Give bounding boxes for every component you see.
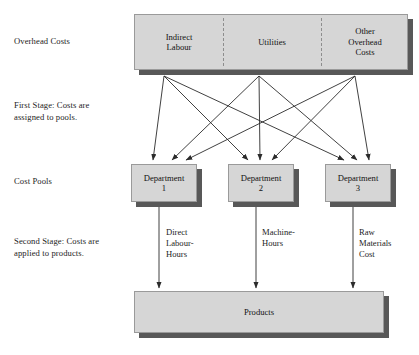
stage-label-cost-pools: Cost Pools — [14, 176, 134, 188]
cost-pool-label: Department 2 — [241, 173, 282, 194]
overhead-cell-indirect-labour: Indirect Labour — [135, 15, 223, 69]
overhead-cell-utilities: Utilities — [223, 15, 321, 69]
first-stage-arrow-group — [153, 76, 369, 160]
stage-label-overhead-costs: Overhead Costs — [14, 36, 134, 48]
stage-label-second-stage: Second Stage: Costs are applied to produ… — [14, 236, 142, 259]
two-stage-allocation-diagram: Overhead Costs First Stage: Costs are as… — [0, 0, 419, 355]
overhead-cell-label: Utilities — [258, 37, 286, 48]
cost-driver-machine-hours: Machine- Hours — [262, 227, 334, 249]
overhead-divider — [321, 18, 322, 66]
arrow-other-overhead-to-department-3 — [355, 76, 369, 160]
cost-driver-direct-labour-hours: Direct Labour- Hours — [166, 227, 238, 260]
arrow-other-overhead-to-department-2 — [272, 76, 355, 160]
cost-pool-label: Department 1 — [144, 173, 185, 194]
stage-label-first-stage: First Stage: Costs are assigned to pools… — [14, 100, 134, 123]
cost-pool-department-3: Department 3 — [325, 164, 391, 202]
cost-pool-department-1: Department 1 — [131, 164, 197, 202]
arrow-utilities-to-department-3 — [259, 76, 357, 160]
arrow-indirect-labour-to-department-2 — [164, 76, 248, 160]
overhead-cell-label: Other Overhead Costs — [348, 26, 381, 58]
arrow-utilities-to-department-2 — [259, 76, 260, 160]
arrow-utilities-to-department-1 — [172, 76, 259, 160]
arrow-other-overhead-to-department-1 — [186, 76, 355, 160]
products-label: Products — [244, 307, 274, 318]
cost-driver-raw-materials-cost: Raw Materials Cost — [359, 227, 419, 260]
cost-pool-label: Department 3 — [338, 173, 379, 194]
overhead-cell-label: Indirect Labour — [166, 32, 193, 53]
arrow-indirect-labour-to-department-1 — [153, 76, 164, 160]
products-box: Products — [134, 291, 384, 333]
overhead-cell-other-overhead-costs: Other Overhead Costs — [321, 15, 409, 69]
arrow-indirect-labour-to-department-3 — [164, 76, 344, 160]
overhead-divider — [223, 18, 224, 66]
cost-pool-department-2: Department 2 — [228, 164, 294, 202]
overhead-costs-bar: Indirect Labour Utilities Other Overhead… — [134, 14, 408, 70]
